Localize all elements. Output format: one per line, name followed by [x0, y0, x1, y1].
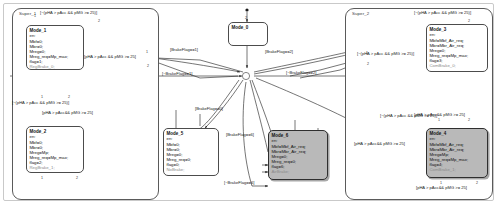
transition-order-number: 1: [366, 51, 368, 55]
transition-label-super2-top: [~(pHA > pAcc && pMG >= 25)]: [414, 11, 471, 16]
transition-order-number: 1: [438, 118, 440, 122]
transition-label-super1-bottom-right: [pHA > pAcc&& pMG >= 25]: [42, 111, 93, 116]
state-line: AirBrake;: [272, 169, 325, 174]
transition-order-number: 2: [147, 64, 149, 68]
transition-order-number: 2: [98, 19, 100, 23]
state-mode-4[interactable]: Mode_4 en: Mbf=Mbf_Air_req; Mbr=Mbr_Air_…: [426, 128, 488, 178]
transition-label-brakeflag-1: [BrakeFlag==1]: [170, 48, 198, 53]
state-mode-5[interactable]: Mode_5 en: Mbf=0; Mbr=0; Mreg=0; Mreg_re…: [163, 128, 219, 176]
state-mode-1[interactable]: Mode_1 en: Mbf=0; Mbr=0; Mreg=0; Mreg_re…: [26, 25, 84, 70]
transition-order-number: 1: [41, 95, 43, 99]
transition-label-super1-bottom-left: [~(pHA > pAcc && pMG >= 25)]: [12, 101, 69, 106]
transition-label-super1-top: [~(pHA > pAcc && pMG >= 25)]: [40, 11, 97, 16]
transition-label-super2-mode4-left: [pHA > pAcc&& pMG >= 25]: [354, 142, 405, 147]
stateflow-canvas: Super_1 Super_2 Mode_0 Mode_1 en: Mbf=0;…: [0, 0, 497, 210]
transition-order-number: 1: [440, 181, 442, 185]
transition-label-not-brakeflag-1: [~BrakeFlag==1]: [162, 72, 192, 77]
transition-label-brakeflag-2: [BrakeFlag==2]: [265, 50, 293, 55]
transition-order-number: 2: [76, 176, 78, 180]
transition-order-number: 2: [245, 16, 247, 20]
transition-order-number: 2: [468, 19, 470, 23]
transition-label-brakeflag-6: [BrakeFlag==6]: [226, 133, 254, 138]
state-mode-3[interactable]: Mode_3 en: Mbf=Mbf_Air_req; Mbr=Mbr_Air_…: [426, 24, 488, 72]
transition-order-number: 1: [146, 50, 148, 54]
transition-order-number: 2: [367, 62, 369, 66]
transition-order-number: 1: [34, 14, 36, 18]
transition-order-number: 1: [41, 176, 43, 180]
transition-order-number: 2: [476, 181, 478, 185]
transition-order-number: 2: [468, 118, 470, 122]
transition-label-not-brakeflag-2: [~BrakeFlag==2]: [286, 71, 316, 76]
transition-label-super1-mid-right: [pHA > pAcc && pMG >= 25]: [84, 55, 136, 60]
state-mode-0[interactable]: Mode_0: [228, 22, 268, 46]
superstate-label-super-2: Super_2: [352, 11, 369, 16]
state-mode-2[interactable]: Mode_2 en: Mbf=0; Mbr=0; Mreg=Mp; Mreg_r…: [26, 126, 84, 173]
state-name-mode-0: Mode_0: [232, 25, 265, 30]
state-line: ComBrake_0;: [430, 63, 485, 68]
transition-label-super2-mode4-top: [pHA > pAcc&& pMG >= 25]: [414, 113, 465, 118]
state-mode-6[interactable]: Mode_6 en: Mbf=Mbf_Air_req; Mbr=Mbr_Air_…: [268, 130, 328, 180]
transition-label-super2-mode4-bottom: [pHA > pAcc&& pMG >= 25]: [416, 186, 467, 191]
transition-label-brakeflag-0: [BrakeFlag==0]: [195, 107, 223, 112]
transition-order-number: 2: [68, 95, 70, 99]
transition-label-not-brakeflag-6: [~BrakeFlag==6]: [224, 181, 254, 186]
state-line: RegBrake_1;: [30, 165, 81, 170]
state-line: NoBrake;: [167, 167, 216, 172]
state-line: ComBrake_1;: [430, 167, 485, 172]
state-line: RegBrake_0;: [30, 64, 81, 69]
